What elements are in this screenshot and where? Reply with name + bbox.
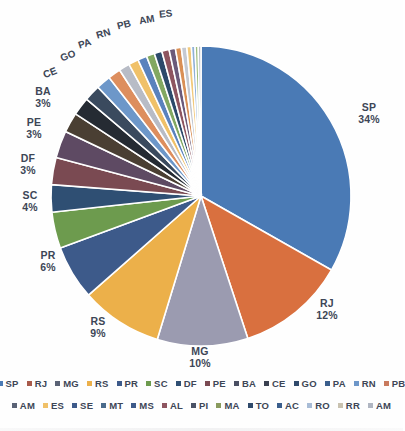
- legend-label: RO: [315, 400, 330, 411]
- legend-item-rn-12[interactable]: RN: [354, 378, 376, 389]
- slice-label-rj: RJ 12%: [307, 297, 347, 321]
- slice-label-pe-name: PE: [27, 116, 41, 128]
- chart-plot-area: SP 34% RJ 12% MG 10% RS 9% PR 6% SC 4% D…: [0, 0, 403, 370]
- slice-label-mg-pct: 10%: [180, 357, 220, 369]
- slice-label-pr-pct: 6%: [28, 261, 68, 273]
- legend-swatch-icon: [72, 403, 77, 408]
- slice-label-pr: PR 6%: [28, 249, 68, 273]
- slice-label-sp-name: SP: [362, 101, 376, 113]
- legend-item-ce-9[interactable]: CE: [264, 378, 286, 389]
- legend-item-pa-11[interactable]: PA: [325, 378, 346, 389]
- legend-swatch-icon: [176, 381, 181, 386]
- legend-label: MG: [63, 378, 79, 389]
- legend-label: CE: [272, 378, 286, 389]
- legend-swatch-icon: [101, 403, 106, 408]
- slice-label-ba: BA 3%: [23, 85, 63, 109]
- legend-item-ro-10[interactable]: RO: [307, 400, 330, 411]
- legend-swatch-icon: [384, 381, 389, 386]
- legend-label: PE: [213, 378, 226, 389]
- legend-swatch-icon: [117, 381, 122, 386]
- legend-label: RN: [362, 378, 376, 389]
- slice-label-rs-name: RS: [91, 315, 106, 327]
- slice-label-mg-name: MG: [191, 345, 208, 357]
- legend-item-rs-3[interactable]: RS: [87, 378, 109, 389]
- slice-label-mg: MG 10%: [180, 345, 220, 369]
- legend-label: RS: [95, 378, 109, 389]
- legend-item-pe-7[interactable]: PE: [205, 378, 226, 389]
- chart-legend: SPRJMGRSPRSCDFPEBACEGOPARNPB AMESSEMTMSA…: [0, 372, 403, 422]
- slice-callout-es: ES: [158, 7, 172, 19]
- legend-item-to-8[interactable]: TO: [248, 400, 269, 411]
- legend-label: AC: [285, 400, 299, 411]
- slice-label-sc-name: SC: [23, 189, 38, 201]
- legend-label: AM: [20, 400, 35, 411]
- legend-item-mg-2[interactable]: MG: [55, 378, 79, 389]
- legend-label: AM: [376, 400, 391, 411]
- legend-swatch-icon: [146, 381, 151, 386]
- legend-item-pr-4[interactable]: PR: [117, 378, 139, 389]
- slice-label-ba-name: BA: [35, 85, 51, 97]
- slice-label-rs: RS 9%: [78, 315, 118, 339]
- legend-label: SP: [6, 378, 19, 389]
- slice-label-pr-name: PR: [41, 249, 56, 261]
- legend-swatch-icon: [27, 381, 32, 386]
- legend-swatch-icon: [368, 403, 373, 408]
- legend-swatch-icon: [216, 403, 221, 408]
- legend-swatch-icon: [234, 381, 239, 386]
- legend-item-rj-1[interactable]: RJ: [27, 378, 48, 389]
- legend-swatch-icon: [43, 403, 48, 408]
- legend-label: MS: [139, 400, 154, 411]
- legend-item-ac-9[interactable]: AC: [277, 400, 299, 411]
- legend-item-rr-11[interactable]: RR: [338, 400, 360, 411]
- slice-label-rj-name: RJ: [320, 297, 334, 309]
- legend-item-pi-6[interactable]: PI: [191, 400, 208, 411]
- slice-label-df-pct: 3%: [8, 164, 48, 176]
- slice-label-rs-pct: 9%: [78, 327, 118, 339]
- legend-item-am-0[interactable]: AM: [12, 400, 35, 411]
- legend-swatch-icon: [162, 403, 167, 408]
- legend-label: BA: [242, 378, 256, 389]
- slice-label-sc-pct: 4%: [10, 201, 50, 213]
- legend-label: PR: [125, 378, 139, 389]
- slice-label-df: DF 3%: [8, 152, 48, 176]
- legend-item-es-1[interactable]: ES: [43, 400, 64, 411]
- legend-swatch-icon: [0, 381, 3, 386]
- slice-label-sp: SP 34%: [349, 101, 389, 125]
- legend-swatch-icon: [131, 403, 136, 408]
- legend-label: AL: [170, 400, 183, 411]
- legend-item-mt-3[interactable]: MT: [101, 400, 123, 411]
- legend-label: GO: [302, 378, 317, 389]
- legend-swatch-icon: [307, 403, 312, 408]
- legend-label: RR: [346, 400, 360, 411]
- legend-swatch-icon: [294, 381, 299, 386]
- legend-swatch-icon: [191, 403, 196, 408]
- legend-item-go-10[interactable]: GO: [294, 378, 317, 389]
- legend-item-pb-13[interactable]: PB: [384, 378, 405, 389]
- legend-item-ma-7[interactable]: MA: [216, 400, 239, 411]
- legend-label: PI: [199, 400, 208, 411]
- legend-item-am-12[interactable]: AM: [368, 400, 391, 411]
- legend-swatch-icon: [325, 381, 330, 386]
- legend-swatch-icon: [205, 381, 210, 386]
- legend-label: RJ: [35, 378, 48, 389]
- legend-label: MT: [109, 400, 123, 411]
- legend-row-1: SPRJMGRSPRSCDFPEBACEGOPARNPB: [0, 372, 403, 394]
- legend-item-df-6[interactable]: DF: [176, 378, 197, 389]
- legend-label: DF: [184, 378, 197, 389]
- legend-item-al-5[interactable]: AL: [162, 400, 183, 411]
- legend-item-ms-4[interactable]: MS: [131, 400, 154, 411]
- legend-swatch-icon: [55, 381, 60, 386]
- legend-swatch-icon: [87, 381, 92, 386]
- legend-swatch-icon: [248, 403, 253, 408]
- legend-item-sc-5[interactable]: SC: [146, 378, 168, 389]
- legend-swatch-icon: [277, 403, 282, 408]
- slice-label-df-name: DF: [21, 152, 35, 164]
- legend-item-ba-8[interactable]: BA: [234, 378, 256, 389]
- legend-label: SC: [154, 378, 168, 389]
- legend-item-sp-0[interactable]: SP: [0, 378, 19, 389]
- slice-label-ba-pct: 3%: [23, 97, 63, 109]
- legend-swatch-icon: [12, 403, 17, 408]
- legend-item-se-2[interactable]: SE: [72, 400, 93, 411]
- legend-label: ES: [51, 400, 64, 411]
- legend-label: PA: [333, 378, 346, 389]
